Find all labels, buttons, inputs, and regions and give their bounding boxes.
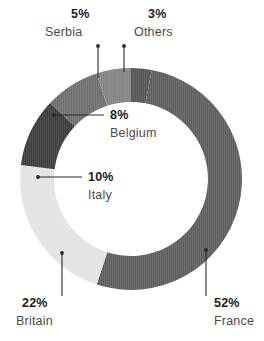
slice-name-belgium: Belgium bbox=[110, 126, 157, 140]
slice-percent-others: 3% bbox=[148, 7, 166, 21]
donut-texture-overlay bbox=[20, 68, 242, 290]
slice-name-serbia: Serbia bbox=[45, 25, 82, 39]
slice-percent-italy: 10% bbox=[88, 170, 114, 184]
slice-percent-belgium: 8% bbox=[110, 108, 128, 122]
leader-dot-italy bbox=[36, 175, 40, 179]
slice-name-france: France bbox=[214, 314, 254, 328]
donut-chart-svg: 52%France22%Britain10%Italy8%Belgium5%Se… bbox=[0, 0, 264, 341]
slice-name-others: Others bbox=[134, 25, 173, 39]
donut-chart: 52%France22%Britain10%Italy8%Belgium5%Se… bbox=[0, 0, 264, 341]
leader-dot-britain bbox=[60, 251, 64, 255]
leader-dot-belgium bbox=[52, 113, 56, 117]
slice-name-britain: Britain bbox=[16, 314, 53, 328]
slice-percent-serbia: 5% bbox=[71, 7, 89, 21]
slice-name-italy: Italy bbox=[88, 188, 112, 202]
leader-dot-serbia bbox=[96, 44, 100, 48]
leader-dot-france bbox=[204, 248, 208, 252]
leader-dot-others bbox=[122, 44, 126, 48]
slice-percent-france: 52% bbox=[214, 296, 240, 310]
slice-percent-britain: 22% bbox=[22, 296, 48, 310]
